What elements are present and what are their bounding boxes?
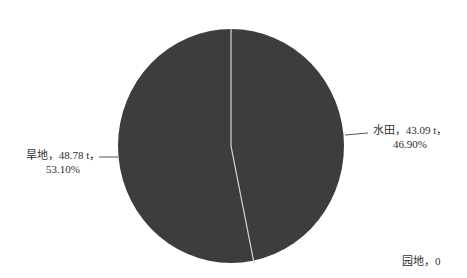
data-label-handi-line2: 53.10% [18,162,108,176]
data-label-yuandi: 园地，0 [402,254,441,268]
data-label-yuandi-line1: 园地，0 [402,254,441,268]
data-label-handi-line1: 旱地，48.78 t， [18,148,108,162]
pie-slice-shuitian [231,28,356,263]
data-label-shuitian-line1: 水田，43.09 t， [370,123,450,137]
data-label-handi: 旱地，48.78 t， 53.10% [18,148,108,176]
pie-chart: 水田，43.09 t， 46.90% 旱地，48.78 t， 53.10% 园地… [0,0,467,278]
data-label-shuitian-line2: 46.90% [370,137,450,151]
data-label-shuitian: 水田，43.09 t， 46.90% [370,123,450,151]
